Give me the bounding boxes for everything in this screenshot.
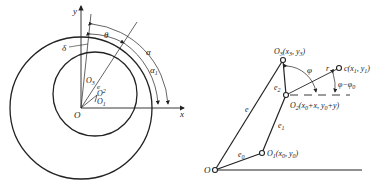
joint-o2 [284,93,289,98]
e1-label: e1 [278,121,285,131]
eccentric-link-1 [81,95,97,108]
o1-label: O1 [97,97,106,107]
delta-leader [69,44,88,47]
r-label: r [326,64,330,73]
diagram-canvas: y x O δ θ α α1 O3 e O2 O1 O O1(x0, y0) O… [0,0,385,181]
e-link-label: e [245,105,249,114]
link-e1 [262,95,286,153]
joint-o3 [281,58,286,63]
ray-o3 [81,14,91,108]
e2-label: e2 [274,83,281,93]
o2-coord-label: O2(x0+x, y0+y) [290,101,339,111]
joint-o1 [260,151,265,156]
o3-coord-label: O3(x3, y3) [274,47,306,57]
o3-label: O3 [86,76,95,86]
o1-coord-label: O1(x0, y0) [267,149,299,159]
phi-diff-label: φ−φ0 [338,80,355,90]
origin-label: O [74,110,81,120]
joint-c [337,66,342,71]
alpha-label: α [146,47,151,57]
e0-label: e0 [238,150,245,160]
x-axis-label: x [179,109,184,119]
phi-diff-arc [333,73,335,92]
y-axis-label: y [72,6,77,16]
c-coord-label: c(x1, y1) [344,64,370,74]
origin-label-right: O [204,165,211,175]
inner-circle [53,52,137,136]
link-e2 [283,60,286,95]
right-figure: O O1(x0, y0) O2(x0+x, y0+y) O3(x3, y3) c… [204,47,370,175]
link-r [286,68,339,95]
ray-alpha [81,22,137,108]
left-figure: y x O δ θ α α1 O3 e O2 O1 [10,6,184,179]
theta-label: θ [104,30,109,40]
delta-label: δ [62,43,67,53]
joint-o [213,168,218,173]
phi-label: φ [307,65,312,75]
